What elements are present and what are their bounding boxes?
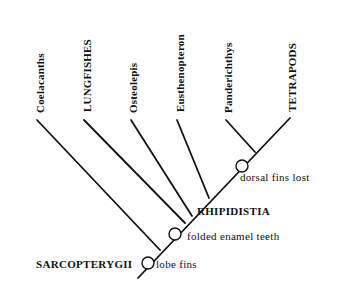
clade-label-sarcopterygii: SARCOPTERYGII	[36, 258, 132, 270]
trait-label-lobe-fins: lobe fins	[156, 258, 197, 270]
branch-coelacanths	[37, 120, 160, 250]
taxon-label-coelacanths: Coelacanths	[34, 53, 46, 113]
branch-lungfishes	[84, 120, 185, 223]
taxon-label-panderichthys: Panderichthys	[222, 42, 234, 113]
trait-node-folded-enamel-teeth	[169, 228, 181, 240]
cladogram: Coelacanths LUNGFISHES Osteolepis Eusthe…	[0, 0, 346, 282]
branch-eusthenopteron	[177, 120, 209, 198]
taxon-label-lungfishes: LUNGFISHES	[81, 39, 93, 112]
clade-label-rhipidistia: RHIPIDISTIA	[197, 205, 270, 217]
trait-label-dorsal-fins-lost: dorsal fins lost	[240, 171, 310, 183]
trait-node-lobe-fins	[142, 257, 154, 269]
branch-panderichthys	[226, 120, 255, 152]
taxon-label-osteolepis: Osteolepis	[127, 62, 139, 113]
taxon-label-tetrapods: TETRAPODS	[286, 43, 298, 112]
trait-label-folded-enamel-teeth: folded enamel teeth	[187, 230, 280, 242]
taxon-label-eusthenopteron: Eusthenopteron	[174, 34, 186, 112]
